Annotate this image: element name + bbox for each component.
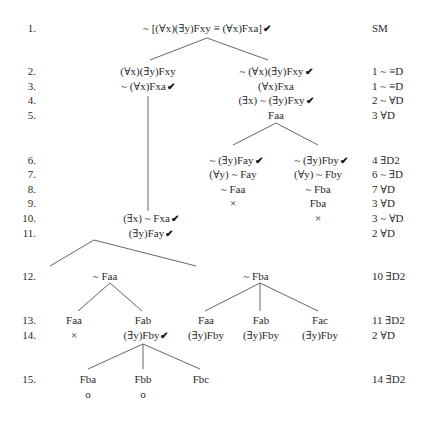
node-15-b: Fbb [134, 373, 151, 386]
left-node-11-text: (∃y)Fay [129, 227, 164, 239]
rr-node-9: Fba [310, 197, 327, 210]
check-mark-icon: ✔ [167, 80, 175, 93]
right-node-3: (∀x)Fxa [258, 80, 294, 93]
rl-node-6: ~ (∃y)Fay✔ [210, 154, 263, 167]
right-node-4-text: (∃x) ~ (∃y)Fxy [238, 94, 304, 106]
line-number-6: 6. [6, 154, 36, 167]
left-node-3-text: ~ (∀x)Fxa [121, 80, 166, 92]
line-number-15: 15. [6, 373, 36, 386]
open-mark-15-b: o [140, 388, 146, 401]
rr-node-6: ~ (∃y)Fby✔ [294, 154, 348, 167]
rr-closed-mark: × [315, 212, 321, 225]
check-mark-icon: ✔ [305, 65, 313, 78]
right-node-2: ~ (∀x)(∃y)Fxy✔ [239, 65, 312, 78]
check-mark-icon: ✔ [340, 154, 348, 167]
line-number-3: 3. [6, 80, 36, 93]
line-number-5: 5. [6, 109, 36, 122]
line-number-7: 7. [6, 168, 36, 181]
rl-closed-mark: × [230, 197, 236, 210]
rr-node-8: ~ Fba [305, 183, 330, 196]
justification-4: 2 ~ ∀D [372, 94, 404, 107]
rl-node-7: (∀y) ~ Fay [209, 168, 256, 181]
root-formula: ~ [(∀x)(∃y)Fxy ≡ (∀x)Fxa]✔ [143, 22, 271, 35]
left-node-11: (∃y)Fay✔ [129, 227, 173, 240]
node-14-d: (∃y)Fby [243, 329, 279, 342]
node-13-e: Fac [312, 314, 328, 327]
node-12-left: ~ Faa [93, 270, 118, 283]
check-mark-icon: ✔ [306, 94, 314, 107]
justification-12: 10 ∃D2 [372, 270, 405, 283]
node-13-d: Fab [253, 314, 270, 327]
rr-node-7: (∀y) ~ Fby [294, 168, 342, 181]
justification-8: 7 ∀D [372, 183, 395, 196]
node-13-a: Faa [66, 314, 82, 327]
line-number-8: 8. [6, 183, 36, 196]
node-12-right: ~ Fba [243, 270, 268, 283]
right-node-5: Faa [268, 109, 284, 122]
left-node-10: (∃x) ~ Fxa✔ [123, 212, 179, 225]
justification-2: 1 ~ ≡D [372, 65, 403, 78]
justification-3: 1 ~ ≡D [372, 80, 403, 93]
left-node-10-text: (∃x) ~ Fxa [123, 212, 170, 224]
check-mark-icon: ✔ [165, 227, 173, 240]
line-number-2: 2. [6, 65, 36, 78]
check-mark-icon: ✔ [263, 22, 271, 35]
closed-mark-14-a: × [71, 329, 77, 342]
node-13-c: Faa [198, 314, 214, 327]
justification-13: 11 ∃D2 [372, 314, 405, 327]
right-node-2-text: ~ (∀x)(∃y)Fxy [239, 65, 303, 77]
line-number-4: 4. [6, 94, 36, 107]
justification-5: 3 ∀D [372, 109, 395, 122]
line-number-11: 11. [6, 227, 36, 240]
justification-10: 3 ~ ∀D [372, 212, 404, 225]
open-mark-15-a: o [85, 388, 91, 401]
justification-15: 14 ∃D2 [372, 373, 405, 386]
node-15-a: Fba [80, 373, 97, 386]
line-number-14: 14. [6, 329, 36, 342]
line-number-9: 9. [6, 197, 36, 210]
node-13-b: Fab [135, 314, 152, 327]
node-15-c: Fbc [193, 373, 210, 386]
rl-node-6-text: ~ (∃y)Fay [210, 154, 254, 166]
justification-6: 4 ∃D2 [372, 154, 400, 167]
left-node-2: (∀x)(∃y)Fxy [120, 65, 175, 78]
justification-1: SM [372, 22, 388, 35]
justification-14: 2 ∀D [372, 329, 395, 342]
node-14-b-text: (∃y)Fby [124, 329, 160, 341]
line-number-10: 10. [6, 212, 36, 225]
check-mark-icon: ✔ [160, 329, 168, 342]
root-formula-text: ~ [(∀x)(∃y)Fxy ≡ (∀x)Fxa] [143, 22, 262, 34]
line-number-13: 13. [6, 314, 36, 327]
check-mark-icon: ✔ [171, 212, 179, 225]
rr-node-6-text: ~ (∃y)Fby [294, 154, 339, 166]
right-node-4: (∃x) ~ (∃y)Fxy✔ [238, 94, 313, 107]
line-number-1: 1. [6, 22, 36, 35]
tree-branches [0, 0, 433, 421]
node-14-b: (∃y)Fby✔ [124, 329, 169, 342]
line-number-12: 12. [6, 270, 36, 283]
node-14-e: (∃y)Fby [302, 329, 338, 342]
justification-11: 2 ∀D [372, 227, 395, 240]
left-node-3: ~ (∀x)Fxa✔ [121, 80, 175, 93]
node-14-c: (∃y)Fby [188, 329, 224, 342]
justification-7: 6 ~ ∃D [372, 168, 403, 181]
justification-9: 3 ∀D [372, 197, 395, 210]
rl-node-8: ~ Faa [221, 183, 246, 196]
check-mark-icon: ✔ [255, 154, 263, 167]
